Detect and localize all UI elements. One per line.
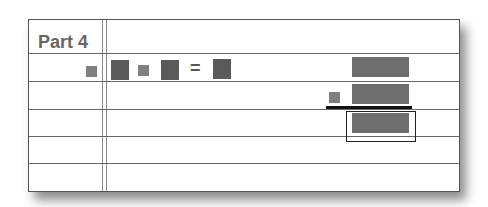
equals-sign: = bbox=[190, 58, 201, 79]
part-title: Part 4 bbox=[38, 32, 88, 53]
sum-line bbox=[326, 106, 412, 109]
middle-rectangle bbox=[352, 84, 409, 104]
large-square-2 bbox=[161, 60, 179, 80]
row-line-3 bbox=[29, 109, 459, 110]
margin-line-left bbox=[102, 20, 103, 191]
row-line-5 bbox=[29, 163, 459, 164]
margin-line-right bbox=[106, 20, 107, 191]
large-square-1 bbox=[111, 60, 129, 80]
worksheet-grid: Part 4 = bbox=[28, 19, 460, 192]
carry-small-square bbox=[329, 92, 340, 103]
small-square-2 bbox=[138, 65, 149, 76]
row-line-2 bbox=[29, 81, 459, 82]
answer-rectangle bbox=[352, 113, 409, 133]
small-square-1 bbox=[86, 66, 97, 77]
row-line-1 bbox=[29, 53, 459, 54]
large-square-3 bbox=[213, 59, 231, 79]
top-rectangle bbox=[352, 57, 409, 77]
